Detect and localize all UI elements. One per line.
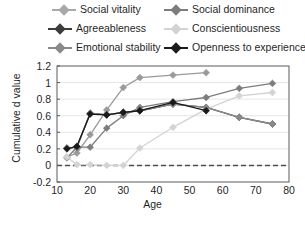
y-tick-label: 1 [21,77,51,89]
legend-label: Social vitality [80,4,141,15]
data-point-marker [87,111,94,118]
plot-area: Cumulative d value -0.200.20.40.60.811.2… [0,58,305,241]
series-line-emotional-stability [67,104,272,148]
data-point-marker [203,94,210,101]
legend-item-agreeableness: Agreeableness [48,23,146,34]
data-point-marker [236,114,243,121]
x-tick-label: 60 [210,184,236,196]
data-point-marker [170,124,177,131]
data-point-marker [203,69,210,76]
legend-label: Conscientiousness [192,23,280,34]
legend-label: Social dominance [192,4,275,15]
legend-marker-openness-to-experience [164,42,188,53]
legend-row-2: Agreeableness Conscientiousness [0,23,305,40]
diamond-marker-icon [170,42,181,53]
y-tick-label: 0.4 [21,126,51,138]
x-tick-label: 30 [110,184,136,196]
legend-row-1: Social vitality Social dominance [0,4,305,21]
data-point-marker [269,80,276,87]
legend-marker-agreeableness [48,23,72,34]
data-point-marker [236,85,243,92]
data-point-marker [64,145,71,152]
legend-marker-social-dominance [164,4,188,15]
x-tick-label: 50 [177,184,203,196]
legend-label: Emotional stability [76,42,161,53]
legend-marker-emotional-stability [48,42,72,53]
diamond-marker-icon [170,4,181,15]
legend-marker-social-vitality [52,4,76,15]
chart-legend: Social vitality Social dominance Agreeab… [0,4,305,60]
legend-marker-conscientiousness [164,23,188,34]
x-tick-label: 80 [276,184,302,196]
y-tick-label: 0.8 [21,93,51,105]
x-tick-label: 70 [243,184,269,196]
diamond-marker-icon [58,4,69,15]
x-tick-label: 20 [77,184,103,196]
y-tick-label: 0.6 [21,110,51,122]
legend-item-social-vitality: Social vitality [52,4,141,15]
data-point-marker [269,121,276,128]
legend-row-3: Emotional stability Openness to experien… [0,42,305,59]
x-axis-label: Age [0,198,305,210]
diamond-marker-icon [54,23,65,34]
data-point-marker [236,92,243,99]
diamond-marker-icon [54,42,65,53]
legend-label: Openness to experience [192,42,305,53]
data-point-marker [136,74,143,81]
legend-item-emotional-stability: Emotional stability [48,42,161,53]
x-axis-ticks: 1020304050607080 [0,184,305,198]
y-axis-ticks: -0.200.20.40.60.811.2 [19,58,51,188]
legend-item-conscientiousness: Conscientiousness [164,23,280,34]
data-point-marker [170,72,177,79]
y-tick-label: 1.2 [21,60,51,72]
data-point-marker [103,162,110,169]
legend-item-social-dominance: Social dominance [164,4,275,15]
series-line-agreeableness [67,104,272,148]
diamond-marker-icon [170,23,181,34]
data-point-marker [269,89,276,96]
legend-label: Agreeableness [76,23,146,34]
legend-item-openness: Openness to experience [164,42,305,53]
x-tick-label: 10 [44,184,70,196]
chart-figure: Social vitality Social dominance Agreeab… [0,0,305,241]
y-tick-label: 0 [21,159,51,171]
x-tick-label: 40 [143,184,169,196]
y-tick-label: 0.2 [21,143,51,155]
data-point-marker [87,161,94,168]
